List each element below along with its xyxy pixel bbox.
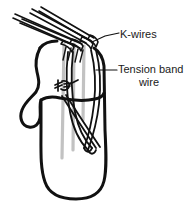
bone-main-contour: [21, 48, 106, 199]
illustration-svg: [0, 0, 196, 206]
figure-container: K-wires Tension band wire: [0, 0, 196, 206]
label-kwires: K-wires: [120, 28, 157, 41]
knot-twist-6: [64, 86, 70, 87]
bone-top-left-edge: [40, 41, 57, 48]
label-tension-band-wire: Tension band wire: [118, 63, 194, 89]
label-tension-line1: Tension band: [118, 63, 183, 75]
label-tension-line2: wire: [118, 76, 180, 89]
